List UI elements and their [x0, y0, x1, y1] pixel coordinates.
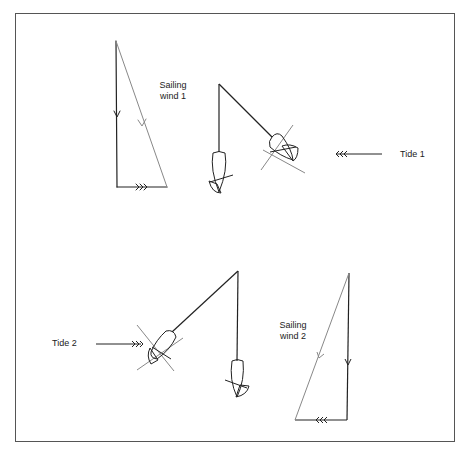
- label-line: wind 2: [270, 331, 316, 342]
- label-sailing-wind-2: Sailing wind 2: [270, 320, 316, 342]
- tide-arrow-1: [336, 151, 382, 157]
- label-tide-2: Tide 2: [52, 338, 77, 349]
- anchor-rode-2: [172, 271, 238, 361]
- label-line: wind 1: [148, 91, 198, 102]
- tide-wind-diagram: [0, 0, 471, 455]
- boat-icon-2a: [137, 325, 183, 371]
- label-line: Sailing: [270, 320, 316, 331]
- tide-arrow-2: [96, 341, 143, 347]
- anchor-rode-1: [219, 84, 272, 152]
- label-tide-1: Tide 1: [400, 149, 425, 160]
- label-sailing-wind-1: Sailing wind 1: [148, 80, 198, 102]
- label-line: Sailing: [148, 80, 198, 91]
- vector-triangle-2: [295, 273, 351, 423]
- vector-triangle-1: [114, 41, 167, 190]
- boat-icon-2b: [225, 360, 249, 398]
- boat-icon-1a: [209, 152, 233, 194]
